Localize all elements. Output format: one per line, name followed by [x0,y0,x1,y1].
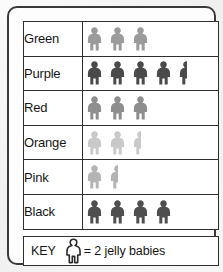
jelly-baby-half-figure-icon [178,60,187,86]
row-label-black: Black [24,194,83,229]
jelly-baby-figure-icon [132,60,149,86]
row-label-purple: Purple [24,56,83,91]
jelly-baby-figure-icon [109,60,126,86]
row-figures-green [83,22,219,57]
table-row: Black [24,194,219,229]
row-label-red: Red [24,91,83,126]
jelly-baby-figure-icon [86,95,103,121]
row-label-pink: Pink [24,160,83,195]
figure-group [83,91,218,125]
jelly-baby-figure-icon [64,238,83,264]
jelly-baby-figure-icon [86,26,103,52]
figure-group [83,126,218,160]
jelly-baby-half-figure-icon [132,130,141,156]
table-row: Pink [24,160,219,195]
jelly-baby-figure-icon [86,164,103,190]
figure-group [83,195,218,229]
jelly-baby-figure-icon [109,130,126,156]
table-row: Orange [24,125,219,160]
key-equals-text: = 2 jelly babies [84,244,165,258]
row-figures-black [83,194,219,229]
row-label-green: Green [24,22,83,57]
jelly-baby-figure-icon [86,199,103,225]
jelly-baby-figure-icon [109,26,126,52]
figure-group [83,22,218,56]
jelly-baby-figure-icon [132,199,149,225]
key-label: KEY [31,244,56,258]
jelly-baby-figure-icon [109,95,126,121]
row-figures-orange [83,125,219,160]
pictogram-card-frame: Green Purple Red [7,6,216,265]
jelly-baby-figure-icon [132,26,149,52]
jelly-baby-figure-icon [109,199,126,225]
row-figures-pink [83,160,219,195]
table-row: Purple [24,56,219,91]
jelly-baby-figure-icon [155,60,172,86]
row-figures-purple [83,56,219,91]
pictogram-chart: Green Purple Red [23,21,219,230]
jelly-baby-half-figure-icon [109,164,118,190]
row-figures-red [83,91,219,126]
jelly-baby-figure-icon [86,60,103,86]
chart-key: KEY = 2 jelly babies [23,236,219,266]
jelly-baby-figure-icon [155,199,172,225]
figure-group [83,160,218,194]
pictogram-table: Green Purple Red [23,21,219,230]
row-label-orange: Orange [24,125,83,160]
figure-group [83,57,218,91]
table-row: Red [24,91,219,126]
pictogram-table-body: Green Purple Red [24,22,219,230]
table-row: Green [24,22,219,57]
jelly-baby-figure-icon [132,95,149,121]
jelly-baby-figure-icon [86,130,103,156]
